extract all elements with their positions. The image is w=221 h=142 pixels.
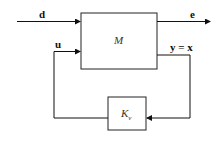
controller-subscript: v (128, 114, 131, 122)
signal-d-label: d (39, 8, 45, 20)
controller-label: Kv (121, 107, 131, 122)
signal-e-label: e (190, 8, 195, 20)
signal-y-label: y = x (170, 41, 193, 53)
plant-label: M (114, 34, 123, 46)
diagram-canvas (0, 0, 221, 142)
signal-u-label: u (55, 38, 61, 50)
y-feedback-line (147, 55, 190, 118)
